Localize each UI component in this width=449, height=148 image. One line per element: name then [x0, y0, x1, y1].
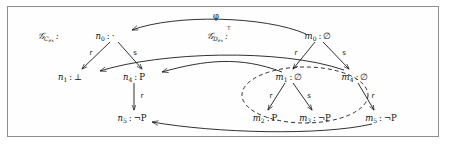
edge-label-n0-n4: s — [133, 49, 137, 57]
morphism-arrow-m0-n0 — [132, 19, 306, 34]
svg-text:m1:∅: m1:∅ — [276, 72, 303, 83]
node-m0-sep: : — [319, 31, 322, 41]
svg-text:n4:P: n4:P — [123, 72, 145, 83]
node-n5-sep: : — [129, 113, 132, 123]
node-m3-value: ¬P — [318, 113, 331, 123]
node-m4-value: ∅ — [360, 72, 368, 82]
node-n4: n4:P — [123, 72, 145, 83]
svg-text:n0:·: n0:· — [96, 31, 115, 42]
node-m4-index: 4 — [350, 76, 354, 83]
node-m5: m5:¬P — [365, 113, 397, 124]
edge-label-m4-m5: r — [372, 92, 375, 100]
svg-text:n5:¬P: n5:¬P — [117, 113, 146, 124]
node-n4-value: P — [139, 72, 145, 82]
svg-text:m5:¬P: m5:¬P — [365, 113, 397, 124]
node-m1-index: 1 — [284, 76, 288, 83]
left-structure-colon: : — [56, 31, 59, 41]
node-n1-value: ⊥ — [74, 72, 82, 82]
edge-label-m1-m3: s — [307, 92, 311, 100]
right-structure-label: 𝒢Dex: ⊤ — [207, 24, 232, 43]
node-m3: m3:¬P — [299, 113, 331, 124]
node-m3-sep: : — [313, 113, 316, 123]
svg-text:m0:∅: m0:∅ — [305, 31, 332, 42]
left-structure-label: 𝒢Cex: — [38, 31, 59, 43]
node-m1: m1:∅ — [276, 72, 303, 83]
node-m3-name: m — [299, 113, 307, 123]
node-m1-value: ∅ — [294, 72, 302, 82]
node-m5-index: 5 — [373, 117, 377, 124]
figure-page: r s r r s r s r φ 𝒢Cex: 𝒢Dex: ⊤ n0:· — [0, 0, 449, 148]
node-m2-sep: : — [267, 113, 270, 123]
svg-text:m4:∅: m4:∅ — [342, 72, 369, 83]
node-n4-sep: : — [134, 72, 137, 82]
right-structure-sup: ⊤ — [226, 24, 232, 31]
node-n1-sep: : — [69, 72, 72, 82]
node-n0: n0:· — [96, 31, 115, 42]
node-m5-sep: : — [379, 113, 382, 123]
left-structure-subsub: ex — [49, 38, 55, 43]
node-m2-name: m — [253, 113, 261, 123]
svg-text:m3:¬P: m3:¬P — [299, 113, 331, 124]
svg-text:𝒢Cex:: 𝒢Cex: — [38, 31, 59, 43]
node-m2-value: P — [272, 113, 278, 123]
node-n5-value: ¬P — [134, 113, 147, 123]
svg-text:m2:P: m2:P — [253, 113, 278, 124]
node-m2: m2:P — [253, 113, 278, 124]
node-m0-index: 0 — [313, 35, 317, 42]
edge-n0-n1 — [82, 42, 110, 69]
diagram-canvas: r s r r s r s r φ 𝒢Cex: 𝒢Dex: ⊤ n0:· — [0, 0, 449, 148]
node-m5-value: ¬P — [384, 113, 397, 123]
node-m1-sep: : — [290, 72, 293, 82]
node-n1: n1:⊥ — [58, 72, 82, 83]
node-n0-index: 0 — [101, 35, 105, 42]
node-n4-index: 4 — [129, 76, 133, 83]
morphism-label-phi: φ — [213, 11, 219, 21]
node-m0: m0:∅ — [305, 31, 332, 42]
right-structure-colon: : — [225, 31, 228, 41]
right-structure-subsub: ex — [218, 38, 224, 43]
node-n5-index: 5 — [123, 117, 127, 124]
node-m0-name: m — [305, 31, 313, 41]
node-n0-sep: : — [107, 31, 110, 41]
node-m1-name: m — [276, 72, 284, 82]
node-m4: m4:∅ — [342, 72, 369, 83]
edge-label-n4-n5: r — [141, 92, 144, 100]
svg-text:n1:⊥: n1:⊥ — [58, 72, 82, 83]
edge-label-m0-m1: r — [295, 49, 298, 57]
morphism-arrow-m1-n4 — [162, 61, 282, 72]
node-m0-value: ∅ — [323, 31, 331, 41]
node-m3-index: 3 — [307, 117, 311, 124]
node-m5-name: m — [365, 113, 373, 123]
edge-label-m0-m4: s — [342, 49, 346, 57]
node-n1-index: 1 — [63, 76, 67, 83]
node-m2-index: 2 — [261, 117, 265, 124]
node-n5: n5:¬P — [117, 113, 146, 124]
node-n0-value: · — [112, 31, 115, 41]
node-m4-sep: : — [356, 72, 359, 82]
node-m4-name: m — [342, 72, 350, 82]
edge-label-m1-m2: r — [270, 92, 273, 100]
edge-label-n0-n1: r — [90, 49, 93, 57]
svg-text:𝒢Dex:: 𝒢Dex: — [207, 31, 228, 43]
